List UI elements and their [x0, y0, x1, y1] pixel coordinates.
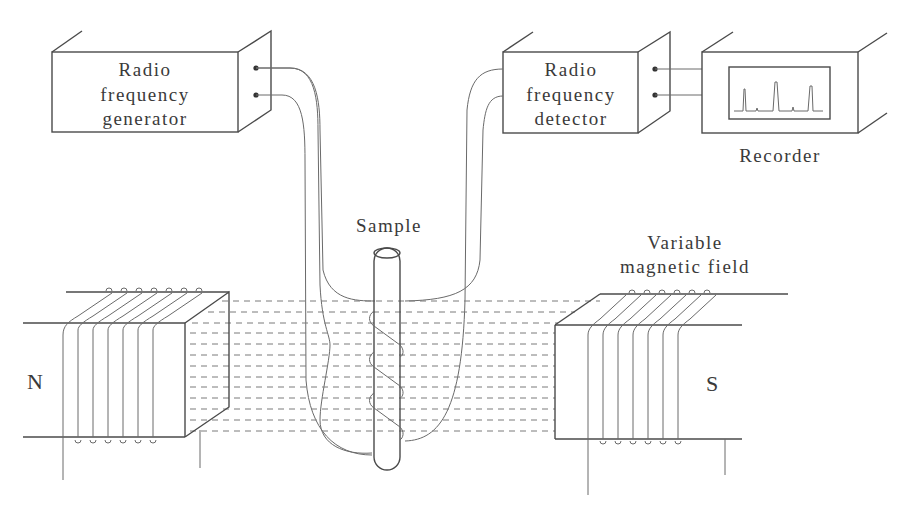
detector-label-line-2: frequency [526, 84, 615, 105]
detector-label-line-1: Radio [545, 59, 598, 80]
generator-label-line-3: generator [102, 108, 187, 129]
detector-label-line-3: detector [534, 108, 607, 129]
recorder-label: Recorder [739, 145, 821, 166]
south-pole-label: S [706, 371, 720, 396]
rf-generator-box: Radio frequency generator [52, 31, 271, 132]
north-magnet: N [23, 288, 229, 480]
field-label-line-1: Variable [647, 232, 722, 253]
magnetic-field-lines [190, 301, 600, 431]
north-pole-label: N [27, 369, 44, 394]
rf-detector-box: Radio frequency detector [503, 32, 670, 133]
field-label-line-2: magnetic field [620, 256, 750, 277]
nmr-diagram: Radio frequency generator Radio frequenc… [0, 0, 910, 519]
generator-label-line-2: frequency [100, 84, 189, 105]
detector-coil-wires [405, 69, 503, 441]
recorder-box: Recorder [702, 32, 887, 166]
generator-coil-wires [256, 68, 375, 455]
south-coil [588, 290, 725, 495]
spectrum-trace-icon [734, 82, 823, 111]
sample-tube: Sample [356, 215, 422, 470]
generator-label-line-1: Radio [119, 59, 172, 80]
south-magnet: S Variable magnetic field [555, 232, 788, 495]
sample-label: Sample [356, 215, 422, 236]
north-coil [63, 288, 202, 480]
detector-recorder-wires [655, 69, 702, 95]
